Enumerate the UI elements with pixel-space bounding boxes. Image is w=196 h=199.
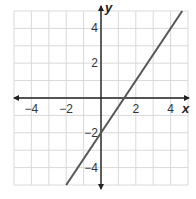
y-axis-label: y [104,0,113,15]
arrow-up-icon [98,5,104,11]
x-tick-label: 4 [167,102,174,116]
x-axis-label: x [181,101,190,116]
arrow-down-icon [98,184,104,190]
y-tick-label: −4 [84,161,98,175]
x-tick-label: −4 [25,102,39,116]
coordinate-plane: −4−22442−2−4 x y [0,0,196,199]
y-tick-label: 2 [91,56,98,70]
y-tick-label: 4 [91,21,98,35]
axes [13,5,190,190]
y-tick-label: −2 [84,126,98,140]
x-tick-label: −2 [59,102,73,116]
x-tick-label: 2 [132,102,139,116]
